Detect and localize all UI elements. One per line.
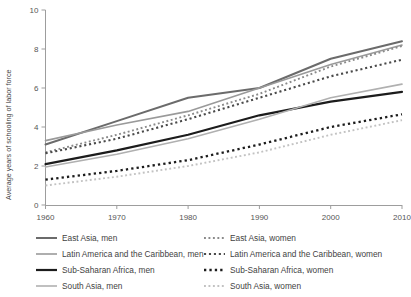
legend-item[interactable]: East Asia, women <box>204 233 407 243</box>
legend-item[interactable]: Latin America and the Caribbean, men <box>36 249 204 259</box>
data-series-group <box>46 41 403 185</box>
x-tick-label: 2010 <box>393 213 411 222</box>
legend-line-swatch-icon <box>204 281 225 291</box>
chart-legend: East Asia, menEast Asia, womenLatin Amer… <box>0 228 411 297</box>
legend-item-label: Latin America and the Caribbean, women <box>230 250 382 258</box>
y-tick-label: 4 <box>34 123 39 132</box>
x-tick-label: 2000 <box>322 213 340 222</box>
legend-item-label: Sub-Saharan Africa, men <box>62 266 155 274</box>
legend-item-label: Latin America and the Caribbean, men <box>62 250 204 258</box>
legend-item[interactable]: South Asia, women <box>204 281 407 291</box>
legend-line-swatch-icon <box>36 249 57 259</box>
legend-item[interactable]: Sub-Saharan Africa, men <box>36 265 204 275</box>
y-axis-ticks: 0246810 <box>30 6 46 210</box>
y-axis-title-text: Average years of schooling of labor forc… <box>4 69 13 200</box>
legend-line-swatch-icon <box>36 265 57 275</box>
y-tick-label: 10 <box>30 6 39 15</box>
y-tick-label: 8 <box>34 45 39 54</box>
legend-line-swatch-icon <box>204 233 225 243</box>
legend-item-label: South Asia, women <box>230 282 301 290</box>
y-tick-label: 2 <box>34 162 39 171</box>
legend-item-label: Sub-Saharan Africa, women <box>230 266 333 274</box>
legend-item[interactable]: South Asia, men <box>36 281 204 291</box>
x-tick-label: 1970 <box>108 213 126 222</box>
legend-item-label: East Asia, women <box>230 234 296 242</box>
legend-line-swatch-icon <box>204 249 225 259</box>
legend-item-label: East Asia, men <box>62 234 117 242</box>
x-tick-label: 1980 <box>179 213 197 222</box>
legend-line-swatch-icon <box>204 265 225 275</box>
y-axis-title: Average years of schooling of labor forc… <box>4 69 13 200</box>
legend-item[interactable]: Sub-Saharan Africa, women <box>204 265 407 275</box>
legend-line-swatch-icon <box>36 281 57 291</box>
y-tick-label: 0 <box>34 201 39 210</box>
legend-item[interactable]: Latin America and the Caribbean, women <box>204 249 407 259</box>
legend-line-swatch-icon <box>36 233 57 243</box>
y-tick-label: 6 <box>34 84 39 93</box>
chart-figure: Average years of schooling of labor forc… <box>0 0 411 297</box>
legend-item-label: South Asia, men <box>62 282 122 290</box>
legend-item[interactable]: East Asia, men <box>36 233 204 243</box>
x-tick-label: 1960 <box>37 213 55 222</box>
x-tick-label: 1990 <box>251 213 269 222</box>
legend-grid: East Asia, menEast Asia, womenLatin Amer… <box>36 230 407 294</box>
x-axis-ticks: 196019701980199020002010 <box>37 205 411 222</box>
